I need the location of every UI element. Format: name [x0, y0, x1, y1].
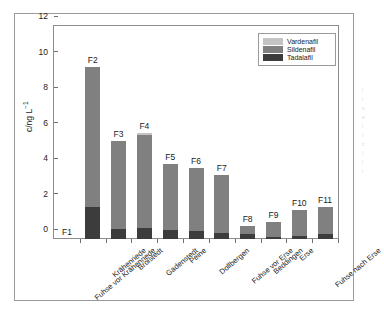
x-axis-tick-mark: [286, 239, 287, 243]
bar-F8[interactable]: F8: [240, 226, 255, 239]
bar-segment-tadalafil: [85, 207, 100, 239]
y-axis-tick-8: 8: [43, 82, 54, 92]
bar-F10[interactable]: F10: [292, 210, 307, 239]
edge-caption-line: l: [362, 86, 384, 95]
legend-label: Vardenafil: [287, 38, 318, 45]
bar-segment-sildenafil: [111, 141, 126, 229]
y-axis-tick-4: 4: [43, 153, 54, 163]
legend-swatch-tadalafil: [263, 54, 283, 61]
y-axis-tick-10: 10: [39, 47, 54, 57]
bar-F7[interactable]: F7: [214, 175, 229, 239]
y-axis-tick-6: 6: [43, 118, 54, 128]
edge-caption-line: i: [362, 131, 384, 140]
x-axis-tick-mark: [235, 239, 236, 243]
edge-caption-line: s: [362, 104, 384, 113]
y-axis-label: c/ng L−1: [22, 101, 34, 132]
x-axis-tick-mark: [183, 239, 184, 243]
edge-caption-line: c: [362, 140, 384, 149]
edge-caption-line: i: [362, 95, 384, 104]
y-axis-tick-12: 12: [39, 11, 54, 21]
bar-segment-sildenafil: [240, 226, 255, 234]
legend-swatch-vardenafil: [263, 38, 283, 45]
bar-segment-tadalafil: [111, 229, 126, 239]
bar-value-label-F2: F2: [88, 55, 98, 65]
y-axis-tick-mark: [54, 122, 58, 123]
x-axis-tick-mark: [312, 239, 313, 243]
bar-value-label-F11: F11: [318, 195, 332, 205]
bar-segment-sildenafil: [318, 207, 333, 234]
bar-F5[interactable]: F5: [163, 164, 178, 239]
bar-segment-tadalafil: [240, 234, 255, 239]
edge-caption-line: l: [362, 158, 384, 167]
bar-segment-tadalafil: [266, 237, 281, 239]
bar-segment-sildenafil: [214, 175, 229, 233]
legend-label: Tadalafil: [287, 54, 313, 61]
bar-value-label-F1: F1: [62, 227, 72, 237]
bar-segment-tadalafil: [318, 234, 333, 239]
edge-caption-line: e: [362, 113, 384, 122]
bar-segment-sildenafil: [266, 222, 281, 237]
bar-F9[interactable]: F9: [266, 222, 281, 239]
legend-item-vardenafil[interactable]: Vardenafil: [263, 38, 331, 45]
edge-caption-line: l: [362, 149, 384, 158]
chart-legend: VardenafilSildenafilTadalafil: [258, 33, 336, 66]
bar-F2[interactable]: F2: [85, 67, 100, 239]
x-axis-tick-mark: [131, 239, 132, 243]
x-axis-tick-mark: [157, 239, 158, 243]
y-axis-tick-mark: [54, 16, 58, 17]
bar-value-label-F8: F8: [243, 214, 253, 224]
bar-segment-tadalafil: [137, 228, 152, 239]
y-axis-tick-mark: [54, 158, 58, 159]
bar-segment-tadalafil: [214, 233, 229, 239]
y-axis-tick-mark: [54, 51, 58, 52]
y-axis-tick-mark: [54, 229, 58, 230]
x-axis-tick-mark: [261, 239, 262, 243]
x-axis-tick-mark: [106, 239, 107, 243]
bar-value-label-F3: F3: [114, 129, 124, 139]
x-axis-tick-mark: [209, 239, 210, 243]
x-axis-tick-mark: [80, 239, 81, 243]
bar-segment-sildenafil: [137, 135, 152, 228]
y-axis-tick-mark: [54, 193, 58, 194]
bar-segment-sildenafil: [292, 210, 307, 237]
y-axis-label-text: c/ng L−1: [24, 101, 34, 132]
bar-value-label-F7: F7: [217, 163, 227, 173]
bar-segment-tadalafil: [163, 230, 178, 239]
figure-container: c/ng L−1 024681012F1F2F3F4F5F6F7F8F9F10F…: [0, 0, 384, 314]
bar-segment-sildenafil: [85, 67, 100, 207]
bar-F6[interactable]: F6: [189, 168, 204, 239]
bar-value-label-F6: F6: [191, 156, 201, 166]
bar-segment-sildenafil: [189, 168, 204, 231]
bar-value-label-F5: F5: [165, 152, 175, 162]
legend-item-tadalafil[interactable]: Tadalafil: [263, 54, 331, 61]
bar-value-label-F10: F10: [292, 198, 307, 208]
edge-caption-line: i: [362, 167, 384, 176]
legend-item-sildenafil[interactable]: Sildenafil: [263, 46, 331, 53]
bar-value-label-F4: F4: [139, 121, 149, 131]
bar-value-label-F9: F9: [268, 210, 278, 220]
y-axis-tick-0: 0: [43, 224, 54, 234]
legend-swatch-sildenafil: [263, 46, 283, 53]
edge-caption-line: l: [362, 122, 384, 131]
bar-segment-tadalafil: [189, 231, 204, 239]
bar-segment-sildenafil: [163, 164, 178, 230]
y-axis-tick-2: 2: [43, 189, 54, 199]
bar-segment-tadalafil: [292, 236, 307, 239]
legend-label: Sildenafil: [287, 46, 315, 53]
bar-F11[interactable]: F11: [318, 207, 333, 239]
y-axis-tick-mark: [54, 87, 58, 88]
bar-F4[interactable]: F4: [137, 133, 152, 240]
edge-caption-fragment: liseliclli: [362, 86, 384, 226]
x-axis-tick-mark: [338, 239, 339, 243]
bar-F3[interactable]: F3: [111, 141, 126, 239]
